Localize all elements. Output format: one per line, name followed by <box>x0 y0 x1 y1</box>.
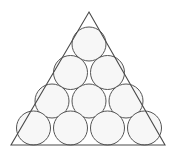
circle-r4-c4 <box>128 111 162 145</box>
circle-r4-c2 <box>54 111 88 145</box>
circle-packing-diagram <box>0 0 176 154</box>
circle-r2-c1 <box>54 56 88 90</box>
packed-circles-group <box>17 27 162 145</box>
circle-r4-c3 <box>91 111 125 145</box>
circle-r2-c2 <box>91 56 125 90</box>
figure-container <box>0 0 176 154</box>
